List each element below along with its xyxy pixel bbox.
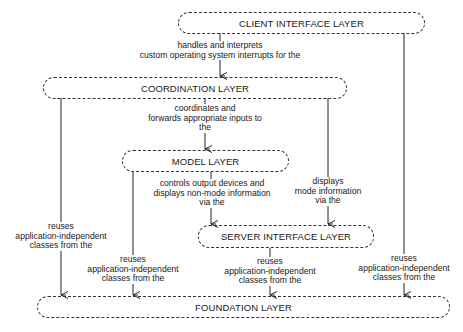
foundation-layer-label: FOUNDATION LAYER — [195, 302, 292, 313]
client-interface-layer: CLIENT INTERFACE LAYER — [178, 12, 425, 34]
foundation-layer: FOUNDATION LAYER — [37, 296, 450, 318]
model-layer: MODEL LAYER — [122, 150, 289, 172]
edge-label-coordination-to-foundation: reuses application-independent classes f… — [11, 222, 111, 251]
coordination-layer: COORDINATION LAYER — [43, 77, 347, 99]
server-interface-layer-label: SERVER INTERFACE LAYER — [221, 231, 351, 242]
edge-label-client-to-foundation: reuses application-independent classes f… — [354, 254, 454, 283]
coordination-layer-label: COORDINATION LAYER — [141, 83, 249, 94]
edge-label-model-to-foundation: reuses application-independent classes f… — [83, 255, 183, 284]
edge-label-server-to-foundation: reuses application-independent classes f… — [220, 257, 320, 286]
client-interface-layer-label: CLIENT INTERFACE LAYER — [239, 18, 364, 29]
edge-label-client-to-coordination: handles and interprets custom operating … — [132, 41, 308, 60]
server-interface-layer: SERVER INTERFACE LAYER — [198, 225, 374, 248]
edge-label-coordination-to-server: displays mode information via the — [292, 177, 364, 206]
model-layer-label: MODEL LAYER — [172, 156, 240, 167]
edge-label-model-to-server: controls output devices and displays non… — [148, 179, 276, 208]
edge-label-coordination-to-model: coordinates and forwards appropriate inp… — [143, 104, 267, 133]
